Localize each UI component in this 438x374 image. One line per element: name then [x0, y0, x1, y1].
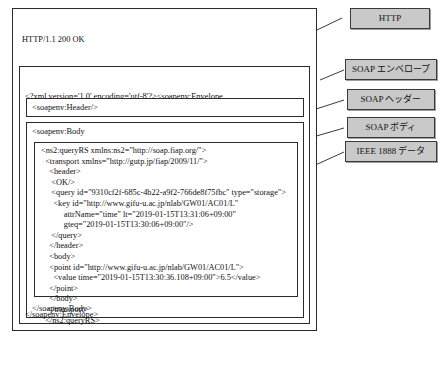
- ieee1888-payload-box: <ns2:queryRS xmlns:ns2="http://soap.fiap…: [34, 142, 298, 297]
- callout-soap-body-label: SOAP ボディ: [366, 123, 417, 132]
- soap-header-box: <soapenv:Header/>: [26, 98, 304, 117]
- callout-soap-envelope-label: SOAP エンベロープ: [352, 65, 430, 74]
- callout-soap-header-label: SOAP ヘッダー: [361, 95, 422, 104]
- soap-body-box: <soapenv:Body <ns2:queryRS xmlns:ns2="ht…: [26, 122, 304, 318]
- callout-http-label: HTTP: [379, 14, 402, 23]
- callout-soap-envelope: SOAP エンベロープ: [345, 59, 437, 80]
- callout-soap-body: SOAP ボディ: [347, 117, 435, 138]
- http-message-box: HTTP/1.1 200 OK Date: Tue, 15 Jan 2019 0…: [12, 8, 317, 331]
- soap-header-tag: <soapenv:Header/>: [27, 99, 303, 113]
- callout-ieee1888-data-label: IEEE 1888 データ: [357, 147, 426, 156]
- callout-soap-header: SOAP ヘッダー: [347, 89, 435, 110]
- callout-ieee1888-data: IEEE 1888 データ: [345, 141, 437, 162]
- soap-message-structure-diagram: HTTP/1.1 200 OK Date: Tue, 15 Jan 2019 0…: [0, 0, 438, 374]
- soap-envelope-box: <?xml version='1.0' encoding='utf-8'?><s…: [19, 66, 310, 324]
- soap-envelope-close-tag: </soapenv:Envelope>: [25, 310, 98, 320]
- http-status-line: HTTP/1.1 200 OK: [22, 35, 316, 46]
- soap-body-open-tag: <soapenv:Body: [27, 123, 303, 137]
- ieee1888-payload-xml: <ns2:queryRS xmlns:ns2="http://soap.fiap…: [41, 146, 297, 326]
- callout-http: HTTP: [350, 8, 430, 29]
